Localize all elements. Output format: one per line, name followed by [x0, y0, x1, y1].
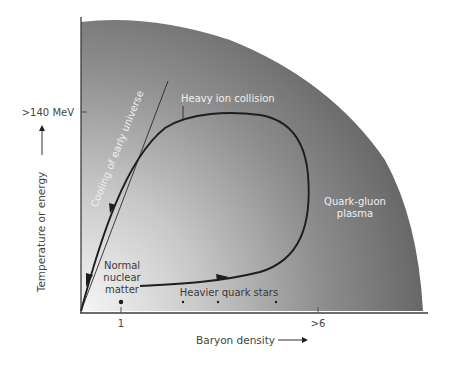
normal-matter-dot: [119, 300, 123, 304]
y-tick-label-140mev: >140 MeV: [22, 107, 74, 118]
phase-diagram: Heavy ion collision Cooling of early uni…: [0, 0, 450, 367]
y-axis-title: Temperature or energy: [35, 172, 47, 294]
quark-star-dot-1: [182, 301, 184, 303]
x-axis-title: Baryon density: [196, 334, 275, 346]
heavy-ion-collision-label: Heavy ion collision: [181, 93, 275, 104]
normal-nuclear-matter-line1: Normal: [104, 260, 140, 271]
x-tick-label-6: >6: [311, 318, 326, 329]
normal-nuclear-matter-line3: matter: [105, 284, 140, 295]
x-tick-label-1: 1: [118, 318, 124, 329]
quark-star-dot-3: [275, 301, 277, 303]
quark-star-dot-2: [217, 301, 219, 303]
quark-gluon-plasma-label-line2: plasma: [337, 208, 373, 219]
quark-gluon-plasma-label-line1: Quark-gluon: [324, 196, 386, 207]
heavier-quark-stars-label: Heavier quark stars: [180, 287, 278, 298]
normal-nuclear-matter-line2: nuclear: [103, 272, 141, 283]
